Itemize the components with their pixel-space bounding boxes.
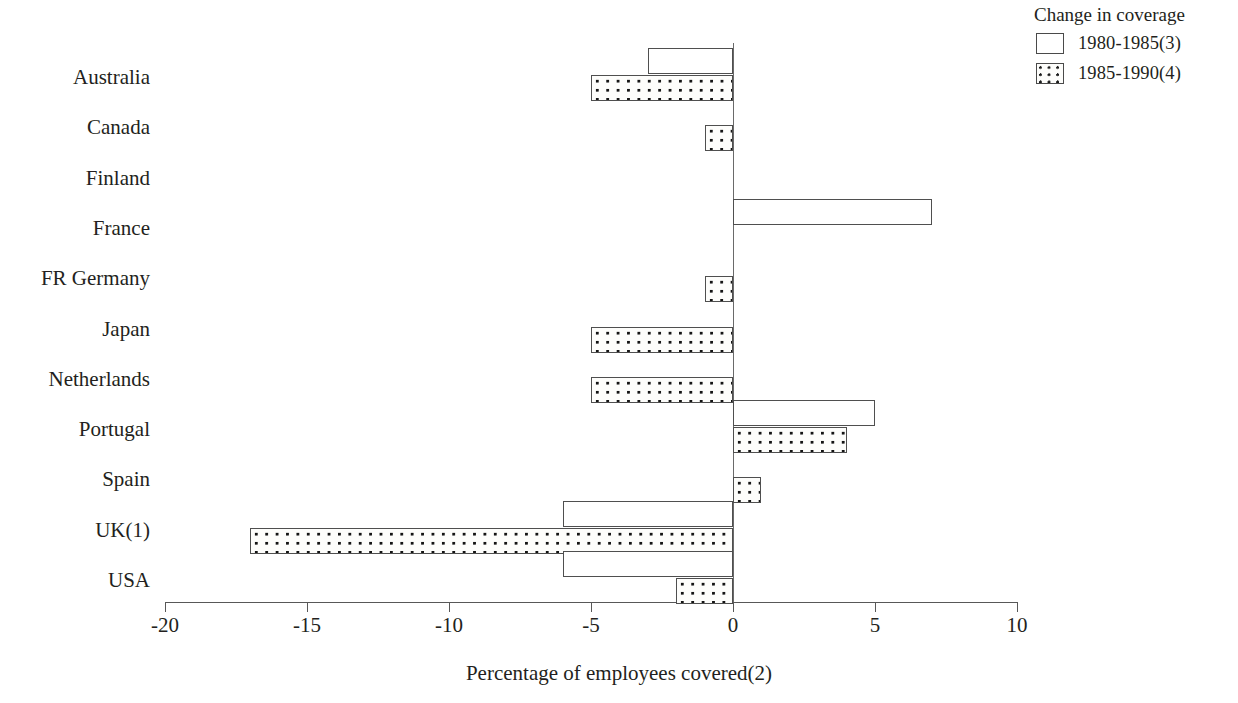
- category-label-fr-germany: FR Germany: [41, 268, 150, 289]
- x-tick-label: -5: [582, 613, 600, 637]
- bar: [563, 551, 733, 577]
- bar: [648, 48, 733, 74]
- category-label-portugal: Portugal: [79, 419, 150, 440]
- bar: [733, 199, 932, 225]
- x-tick-label: -15: [293, 613, 321, 637]
- category-label-netherlands: Netherlands: [49, 369, 150, 390]
- bar: [591, 327, 733, 353]
- zero-baseline: [733, 43, 734, 602]
- bar: [591, 377, 733, 403]
- category-label-uk-1: UK(1): [95, 520, 150, 541]
- bar: [563, 501, 733, 527]
- x-tick-label: 5: [870, 613, 881, 637]
- bar: [733, 427, 847, 453]
- x-axis-title: Percentage of employees covered(2): [0, 661, 1238, 686]
- bar: [676, 578, 733, 604]
- x-tick: [591, 602, 592, 612]
- x-tick: [165, 602, 166, 612]
- bar: [733, 477, 761, 503]
- x-tick: [449, 602, 450, 612]
- bar: [733, 400, 875, 426]
- category-label-finland: Finland: [86, 168, 150, 189]
- category-label-canada: Canada: [87, 117, 150, 138]
- x-tick-label: 10: [1007, 613, 1028, 637]
- x-tick-label: -20: [151, 613, 179, 637]
- bar: [250, 528, 733, 554]
- x-tick: [1017, 602, 1018, 612]
- x-tick-label: -10: [435, 613, 463, 637]
- category-label-australia: Australia: [73, 67, 150, 88]
- category-label-france: France: [93, 218, 150, 239]
- x-tick: [733, 602, 734, 612]
- bar-chart: AustraliaCanadaFinlandFranceFR GermanyJa…: [0, 0, 1238, 703]
- bar: [705, 276, 733, 302]
- category-label-japan: Japan: [102, 319, 150, 340]
- bar: [705, 125, 733, 151]
- category-label-spain: Spain: [102, 469, 150, 490]
- bar: [591, 75, 733, 101]
- x-tick: [307, 602, 308, 612]
- x-tick: [875, 602, 876, 612]
- category-label-usa: USA: [108, 570, 150, 591]
- x-axis-title-text: Percentage of employees covered(2): [466, 661, 772, 686]
- x-tick-label: 0: [728, 613, 739, 637]
